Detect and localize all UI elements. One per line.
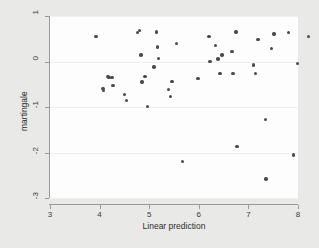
scatter-point bbox=[254, 72, 257, 75]
y-axis-tick bbox=[45, 16, 49, 17]
figure-canvas: martingale Linear prediction 10-1-2-3345… bbox=[0, 0, 319, 248]
y-axis-tick bbox=[45, 198, 49, 199]
gridline-horizontal bbox=[50, 198, 298, 199]
y-axis-tick-label: 0 bbox=[32, 56, 40, 68]
scatter-point bbox=[208, 60, 211, 63]
scatter-point bbox=[123, 93, 126, 96]
x-axis-line bbox=[49, 204, 298, 205]
gridline-horizontal bbox=[50, 62, 298, 63]
scatter-point bbox=[220, 53, 223, 56]
x-axis-tick-label: 7 bbox=[246, 211, 250, 219]
y-axis-tick bbox=[45, 153, 49, 154]
y-axis-tick-label: -2 bbox=[32, 147, 40, 159]
gridline-horizontal bbox=[50, 16, 298, 17]
scatter-point bbox=[181, 160, 184, 163]
scatter-point bbox=[125, 99, 128, 102]
scatter-point bbox=[216, 57, 219, 60]
y-axis-tick bbox=[45, 62, 49, 63]
plot-panel bbox=[50, 16, 298, 198]
x-axis-tick bbox=[50, 205, 51, 209]
scatter-point bbox=[155, 30, 158, 33]
x-axis-tick bbox=[248, 205, 249, 209]
scatter-point bbox=[169, 95, 172, 98]
scatter-point bbox=[157, 57, 160, 60]
x-axis-tick-label: 5 bbox=[147, 211, 151, 219]
scatter-point bbox=[235, 145, 238, 148]
scatter-point bbox=[272, 32, 275, 35]
y-axis-tick bbox=[45, 107, 49, 108]
scatter-point bbox=[139, 53, 142, 56]
y-axis-line bbox=[49, 16, 50, 198]
scatter-point bbox=[230, 50, 233, 53]
scatter-point bbox=[234, 30, 237, 33]
y-axis-tick-label: 1 bbox=[32, 10, 40, 22]
scatter-point bbox=[307, 35, 310, 38]
scatter-point bbox=[292, 153, 295, 156]
scatter-point bbox=[214, 44, 217, 47]
scatter-point bbox=[264, 118, 267, 121]
scatter-point bbox=[175, 42, 178, 45]
scatter-point bbox=[143, 75, 146, 78]
x-axis-tick bbox=[199, 205, 200, 209]
x-axis-tick-label: 8 bbox=[296, 211, 300, 219]
gridline-horizontal bbox=[50, 153, 298, 154]
scatter-point bbox=[287, 31, 290, 34]
scatter-point bbox=[270, 47, 273, 50]
x-axis-tick-label: 4 bbox=[97, 211, 101, 219]
gridline-horizontal bbox=[50, 107, 298, 108]
scatter-point bbox=[111, 84, 114, 87]
x-axis-tick-label: 6 bbox=[197, 211, 201, 219]
y-axis-tick-label: -1 bbox=[32, 101, 40, 113]
x-axis-tick-label: 3 bbox=[48, 211, 52, 219]
scatter-point bbox=[102, 89, 105, 92]
scatter-point bbox=[167, 88, 170, 91]
x-axis-title: Linear prediction bbox=[143, 222, 206, 231]
scatter-point bbox=[196, 77, 199, 80]
scatter-point bbox=[94, 35, 97, 38]
x-axis-tick bbox=[100, 205, 101, 209]
scatter-point bbox=[231, 72, 234, 75]
scatter-point bbox=[140, 80, 143, 83]
x-axis-tick bbox=[149, 205, 150, 209]
scatter-point bbox=[138, 29, 141, 32]
x-axis-tick bbox=[298, 205, 299, 209]
scatter-point bbox=[152, 65, 155, 68]
y-axis-tick-label: -3 bbox=[32, 192, 40, 204]
scatter-point bbox=[252, 63, 255, 66]
scatter-point bbox=[207, 35, 210, 38]
scatter-point bbox=[264, 177, 267, 180]
scatter-point bbox=[296, 62, 299, 65]
scatter-point bbox=[256, 38, 259, 41]
scatter-point bbox=[156, 45, 159, 48]
y-axis-title: martingale bbox=[20, 91, 29, 131]
scatter-point bbox=[110, 76, 113, 79]
scatter-point bbox=[218, 72, 221, 75]
figure-inner-region: martingale Linear prediction 10-1-2-3345… bbox=[6, 4, 313, 242]
scatter-point bbox=[170, 80, 173, 83]
